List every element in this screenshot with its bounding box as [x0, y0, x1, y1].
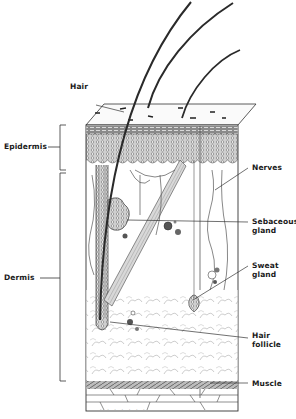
label-sweat-gland-line1: Sweat [252, 261, 279, 270]
label-hair: Hair [70, 82, 88, 91]
caption: · · · · · · · [100, 406, 147, 412]
label-sebaceous-gland-line2: gland [252, 226, 296, 235]
label-hair-follicle: Hair follicle [252, 331, 281, 349]
skin-cross-section-diagram [0, 0, 296, 419]
label-hair-follicle-line2: follicle [252, 340, 281, 349]
hair-follicle [96, 165, 108, 330]
layer-brackets [40, 125, 66, 381]
label-nerves: Nerves [252, 163, 282, 172]
skin-block [86, 125, 238, 411]
label-sebaceous-gland: Sebaceous gland [252, 217, 296, 235]
label-dermis: Dermis [4, 273, 34, 282]
label-sweat-gland-line2: gland [252, 270, 279, 279]
label-sweat-gland: Sweat gland [252, 261, 279, 279]
skin-surface [86, 104, 256, 125]
label-muscle: Muscle [252, 379, 282, 388]
label-sebaceous-gland-line1: Sebaceous [252, 217, 296, 226]
label-epidermis: Epidermis [4, 142, 47, 151]
label-hair-follicle-line1: Hair [252, 331, 281, 340]
